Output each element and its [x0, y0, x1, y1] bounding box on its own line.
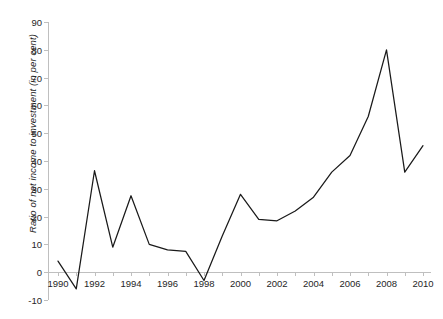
plot-area: -100102030405060708090 19901992199419961… [48, 22, 431, 300]
y-tick-label: -10 [28, 295, 42, 306]
y-tick-label: 20 [31, 211, 42, 222]
data-series-line [48, 22, 431, 300]
y-tick-label: 0 [37, 267, 42, 278]
series-path [58, 50, 423, 289]
y-tick-label: 80 [31, 44, 42, 55]
line-chart: Ratio of net income to investment (in pe… [0, 0, 443, 319]
y-tick-label: 70 [31, 72, 42, 83]
y-tick-label: 30 [31, 183, 42, 194]
y-tick-label: 40 [31, 156, 42, 167]
y-tick-label: 90 [31, 17, 42, 28]
y-tick-mark [44, 300, 48, 301]
y-tick-label: 10 [31, 239, 42, 250]
y-tick-label: 50 [31, 128, 42, 139]
y-tick-label: 60 [31, 100, 42, 111]
